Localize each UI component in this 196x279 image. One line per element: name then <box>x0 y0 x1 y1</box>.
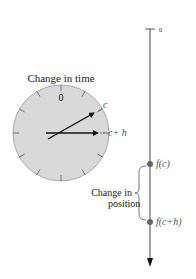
clock-zero-label: 0 <box>59 92 64 103</box>
axis-zero-label: 0 <box>159 27 162 33</box>
point-c-label: f(c) <box>156 158 171 170</box>
point-c-plus-h <box>147 219 153 225</box>
hand-c-label: c <box>103 99 108 110</box>
brace-label-line1: Change in <box>91 187 132 198</box>
point-c <box>147 161 153 167</box>
brace <box>135 166 146 220</box>
diagram: Change in time 0 c c+ h 0 <box>0 0 196 279</box>
hand-ch-label: c+ h <box>108 127 127 138</box>
clock: Change in time 0 c c+ h <box>13 72 127 181</box>
clock-title: Change in time <box>27 72 94 84</box>
axis-arrowhead-icon <box>147 258 153 267</box>
point-ch-label: f(c+h) <box>156 216 182 228</box>
brace-label-line2: position <box>108 198 140 209</box>
